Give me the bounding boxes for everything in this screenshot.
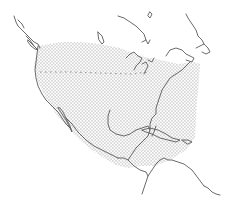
coastline-hudson-bay (118, 16, 150, 44)
coastline-south-america (204, 186, 220, 195)
arctic-island-west (98, 32, 104, 44)
arctic-island (148, 12, 152, 18)
range-map (0, 0, 232, 205)
coastline-alaska-panhandle (14, 16, 40, 48)
range-area (34, 42, 200, 168)
coastline-labrador (186, 14, 210, 54)
coastline-st-lawrence (166, 48, 194, 62)
